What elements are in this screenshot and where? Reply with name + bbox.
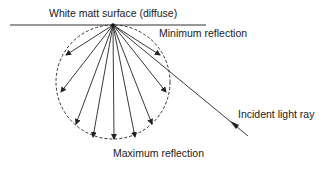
incident-ray-label: Incident light ray (238, 108, 314, 120)
reflected-rays (61, 25, 166, 139)
maximum-reflection-label: Maximum reflection (113, 147, 204, 159)
minimum-reflection-label: Minimum reflection (159, 27, 247, 39)
incidence-point (111, 23, 115, 27)
incident-ray (113, 25, 248, 136)
surface-label: White matt surface (diffuse) (49, 7, 177, 19)
